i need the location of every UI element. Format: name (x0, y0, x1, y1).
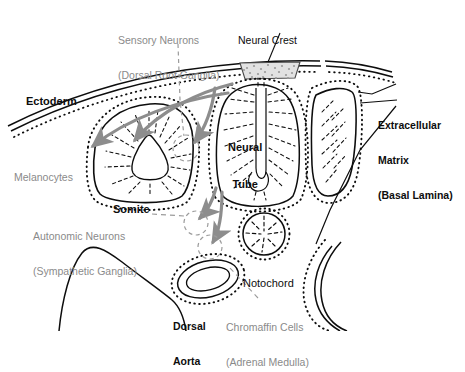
label-melanocytes-line1: Melanocytes (14, 172, 73, 184)
label-neural-tube: Neural Tube (228, 116, 262, 215)
label-notochord-line1: Notochord (243, 277, 294, 289)
label-sensory-neurons: Sensory Neurons (Dorsal Root Ganglia) (118, 11, 220, 105)
label-autonomic-neurons-line1: Autonomic Neurons (33, 231, 137, 243)
label-neural-crest-line1: Neural Crest (238, 35, 297, 47)
label-chromaffin-cells-line1: Chromaffin Cells (226, 322, 309, 334)
label-sensory-neurons-line2: (Dorsal Root Ganglia) (118, 70, 220, 82)
label-chromaffin-cells-line2: (Adrenal Medulla) (226, 357, 309, 369)
label-dorsal-aorta-line2: Aorta (173, 356, 206, 368)
label-melanocytes: Melanocytes (14, 148, 73, 207)
label-extracellular-matrix: Extracellular Matrix (Basal Lamina) (378, 96, 453, 225)
label-sensory-neurons-line1: Sensory Neurons (118, 35, 220, 47)
migration-arrow-chromaffin (213, 192, 222, 242)
label-chromaffin-cells: Chromaffin Cells (Adrenal Medulla) (226, 298, 309, 372)
label-neural-tube-line2: Tube (228, 178, 262, 190)
label-autonomic-neurons-line2: (Sympathetic Ganglia) (33, 266, 137, 278)
autonomic-neurons-leader-line (152, 214, 184, 216)
label-extracellular-matrix-line3: (Basal Lamina) (378, 190, 453, 202)
label-neural-tube-line1: Neural (228, 141, 262, 153)
label-ectoderm: Ectoderm (26, 70, 77, 132)
label-ectoderm-line1: Ectoderm (26, 95, 77, 107)
label-extracellular-matrix-line1: Extracellular (378, 120, 453, 132)
label-neural-crest: Neural Crest (238, 11, 297, 70)
label-autonomic-neurons: Autonomic Neurons (Sympathetic Ganglia) (33, 207, 137, 301)
label-extracellular-matrix-line2: Matrix (378, 155, 453, 167)
lower-right-gut-contour (304, 240, 347, 331)
label-dorsal-aorta: Dorsal Aorta (173, 297, 206, 372)
label-dorsal-aorta-line1: Dorsal (173, 321, 206, 333)
right-somite-structure (306, 81, 362, 203)
